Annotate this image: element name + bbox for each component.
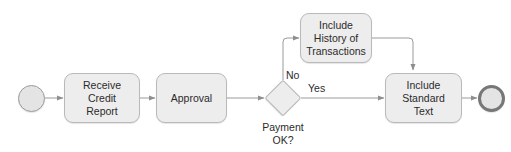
gateway-label-line2: OK? <box>262 134 303 147</box>
gateway-payment-ok-label: Payment OK? <box>262 121 303 147</box>
task-include-standard-text[interactable]: Include Standard Text <box>385 73 462 123</box>
end-event[interactable] <box>478 85 505 112</box>
task-approval-line1: Approval <box>168 92 215 105</box>
diagram-canvas: Receive Credit Report Approval Payment O… <box>0 0 511 152</box>
task-include-standard-text-line1: Include <box>389 79 458 92</box>
task-receive-credit-report[interactable]: Receive Credit Report <box>64 73 140 123</box>
task-receive-credit-report-line2: Credit Report <box>68 92 136 118</box>
task-approval[interactable]: Approval <box>156 73 227 123</box>
task-include-history-line2: History of <box>303 32 369 45</box>
connector-history-to-standard <box>372 38 413 70</box>
task-include-history-of-transactions[interactable]: Include History of Transactions <box>300 13 372 63</box>
task-include-history-line3: Transactions <box>303 45 369 58</box>
gateway-label-line1: Payment <box>262 121 303 134</box>
edge-label-yes: Yes <box>308 82 325 95</box>
edge-label-no: No <box>286 69 299 82</box>
task-receive-credit-report-line1: Receive <box>68 79 136 92</box>
start-event[interactable] <box>18 85 45 112</box>
task-include-standard-text-line2: Standard Text <box>389 92 458 118</box>
task-include-history-line1: Include <box>303 19 369 32</box>
